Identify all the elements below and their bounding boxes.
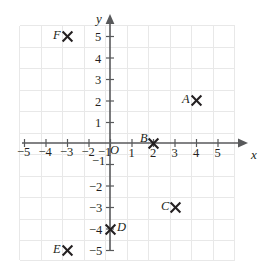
- point-label-d: D: [117, 221, 126, 234]
- point-marker-f: [61, 30, 74, 43]
- point-label-e: E: [53, 243, 61, 256]
- point-label-a: A: [182, 93, 190, 106]
- point-marker-c: [169, 201, 182, 214]
- plotted-points: A B C: [0, 0, 274, 270]
- point-marker-e: [61, 244, 74, 257]
- point-label-c: C: [161, 200, 169, 213]
- point-label-b: B: [140, 132, 148, 145]
- point-marker-a: [190, 94, 203, 107]
- point-label-f: F: [53, 29, 61, 42]
- point-marker-d: [104, 223, 117, 236]
- point-marker-b: [147, 137, 160, 150]
- coordinate-plane-figure: x y O −5 −4 −3 −2 −1 1 2 3 4 5 5 4 3 2 1…: [0, 0, 274, 270]
